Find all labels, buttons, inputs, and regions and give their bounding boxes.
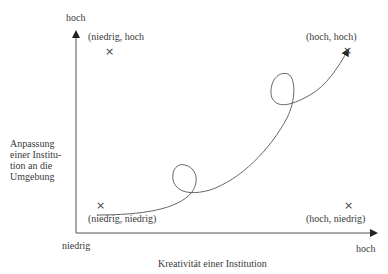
x-axis-title: Kreativität einer Institution [158,258,267,269]
point-label-hoch-niedrig: (hoch, niedrig) [306,213,365,224]
point-marker-niedrig-hoch: × [105,46,114,57]
y-axis-title-line: tion an die [10,160,80,171]
point-marker-hoch-niedrig: × [344,200,353,211]
y-axis-high-label: hoch [66,12,85,23]
y-axis-title-line: Anpassung [10,138,80,149]
y-axis-title-line: Umgebung [10,171,80,182]
trajectory-curve [97,50,348,215]
x-axis-low-label: niedrig [62,240,90,251]
point-marker-niedrig-niedrig: × [96,200,105,211]
point-label-niedrig-hoch: (niedrig, hoch [88,31,144,42]
y-axis-title-line: einer Institu- [10,149,80,160]
x-axis-high-label: hoch [356,243,375,254]
point-label-hoch-hoch: (hoch, hoch) [306,31,357,42]
y-axis-title: Anpassung einer Institu- tion an die Umg… [10,138,80,182]
point-marker-hoch-hoch: × [343,45,352,56]
point-label-niedrig-niedrig: (niedrig, niedrig) [88,213,156,224]
